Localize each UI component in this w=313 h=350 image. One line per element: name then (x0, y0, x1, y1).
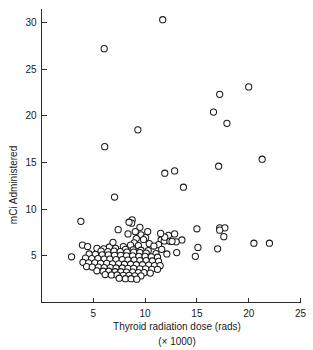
data-point (94, 268, 100, 274)
data-point (145, 228, 151, 234)
data-point (154, 266, 160, 272)
axis-lines (42, 9, 301, 303)
data-point (68, 254, 74, 260)
data-point (135, 127, 141, 133)
data-point (224, 120, 230, 126)
data-point (217, 227, 223, 233)
y-tick-label: 20 (25, 110, 37, 121)
x-axis-subtitle: (× 1000) (158, 336, 196, 347)
data-point (101, 46, 107, 52)
data-point (180, 184, 186, 190)
data-point (158, 230, 164, 236)
y-axis-ticks: 51015202530 (25, 17, 46, 261)
data-point (85, 243, 91, 249)
data-point (172, 231, 178, 237)
data-point (174, 249, 180, 255)
y-axis-title: mCi Administered (8, 146, 19, 224)
x-tick-label: 25 (295, 308, 307, 319)
data-point (102, 271, 108, 277)
data-point (102, 144, 108, 150)
x-axis-ticks: 510152025 (91, 298, 307, 319)
data-point (162, 170, 168, 176)
scatter-plot-figure: 51015202530 510152025 mCi Administered T… (0, 0, 313, 350)
data-point (159, 246, 165, 252)
data-point (134, 276, 140, 282)
data-point (164, 251, 170, 257)
data-point (266, 240, 272, 246)
data-point (194, 226, 200, 232)
x-tick-label: 15 (191, 308, 203, 319)
data-point (221, 234, 227, 240)
data-point (169, 238, 175, 244)
y-tick-label: 15 (25, 157, 37, 168)
data-point (195, 244, 201, 250)
data-point (217, 91, 223, 97)
y-tick-label: 10 (25, 204, 37, 215)
data-point (147, 270, 153, 276)
x-tick-label: 10 (140, 308, 152, 319)
data-point (116, 275, 122, 281)
data-point (125, 231, 131, 237)
x-axis-title: Thyroid radiation dose (rads) (113, 321, 241, 332)
data-point (110, 239, 116, 245)
chart-canvas: 51015202530 510152025 mCi Administered T… (0, 0, 313, 350)
data-point (151, 243, 157, 249)
data-points-layer (68, 17, 272, 283)
y-tick-label: 5 (31, 250, 37, 261)
y-tick-label: 30 (25, 17, 37, 28)
data-point (210, 109, 216, 115)
data-point (251, 240, 257, 246)
data-point (132, 228, 138, 234)
data-point (160, 17, 166, 23)
data-point (111, 194, 117, 200)
data-point (78, 218, 84, 224)
data-point (126, 219, 132, 225)
data-point (216, 163, 222, 169)
x-tick-label: 20 (243, 308, 255, 319)
data-point (140, 236, 146, 242)
x-tick-label: 5 (91, 308, 97, 319)
data-point (192, 253, 198, 259)
data-point (215, 246, 221, 252)
data-point (259, 156, 265, 162)
data-point (246, 84, 252, 90)
data-point (115, 227, 121, 233)
data-point (172, 168, 178, 174)
y-tick-label: 25 (25, 64, 37, 75)
